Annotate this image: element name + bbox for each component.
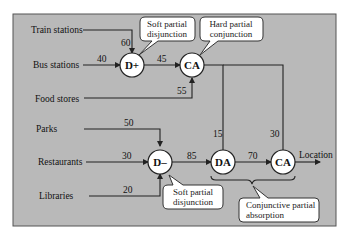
svg-text:absorption: absorption <box>246 210 284 220</box>
svg-text:Soft partial: Soft partial <box>147 19 188 29</box>
input-bus-stations: Bus stations <box>33 60 79 70</box>
node-ca-top: CA <box>180 53 204 77</box>
svg-text:Hard partial: Hard partial <box>209 19 253 29</box>
input-restaurants: Restaurants <box>38 157 83 167</box>
output-location: Location <box>299 150 333 160</box>
weight-food: 55 <box>177 86 187 96</box>
node-d-plus: D+ <box>120 53 144 77</box>
weight-bus: 40 <box>97 54 107 64</box>
node-ca-final: CA <box>271 150 295 174</box>
weight-parks: 50 <box>124 118 134 128</box>
svg-text:D+: D+ <box>125 59 139 71</box>
weight-dplus-ca: 45 <box>157 54 167 64</box>
svg-text:disjunction: disjunction <box>173 197 213 207</box>
node-d-minus: D– <box>148 150 172 174</box>
weight-dminus-da: 85 <box>187 151 197 161</box>
svg-text:Soft partial: Soft partial <box>173 187 214 197</box>
weight-libraries: 20 <box>123 185 133 195</box>
svg-text:CA: CA <box>184 59 200 71</box>
svg-text:D–: D– <box>153 156 167 168</box>
input-food-stores: Food stores <box>35 94 79 104</box>
svg-text:CA: CA <box>275 156 291 168</box>
input-libraries: Libraries <box>39 191 74 201</box>
svg-text:Conjunctive partial: Conjunctive partial <box>246 200 316 210</box>
svg-text:disjunction: disjunction <box>147 29 187 39</box>
input-train-stations: Train stations <box>31 25 83 35</box>
weight-train: 60 <box>121 38 131 48</box>
svg-text:conjunction: conjunction <box>210 29 253 39</box>
weight-restaurants: 30 <box>122 151 132 161</box>
weight-ca-da: 15 <box>213 129 223 139</box>
node-da: DA <box>211 150 235 174</box>
lsp-aggregation-diagram: Train stations Bus stations Food stores … <box>0 0 347 236</box>
weight-ca-cafinal: 30 <box>270 129 280 139</box>
weight-da-cafinal: 70 <box>248 151 258 161</box>
input-parks: Parks <box>36 124 57 134</box>
svg-text:DA: DA <box>215 156 231 168</box>
